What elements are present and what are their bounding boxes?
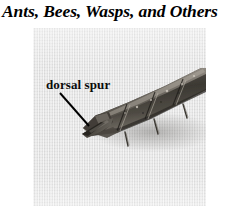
specimen-photo-panel — [33, 28, 206, 206]
figure-root: Ants, Bees, Wasps, and Others — [0, 0, 233, 220]
specimen-illustration — [33, 28, 206, 206]
dorsal-spur-label: dorsal spur — [46, 77, 110, 93]
figure-title: Ants, Bees, Wasps, and Others — [2, 0, 233, 24]
